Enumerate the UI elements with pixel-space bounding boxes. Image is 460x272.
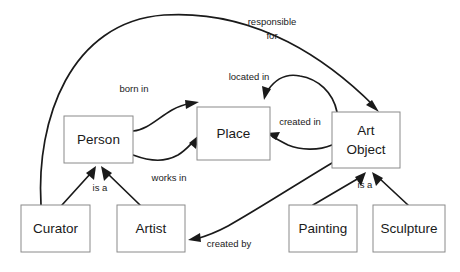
- edge-created-in-line: [273, 137, 332, 149]
- edge-created-by-arrowhead: [188, 233, 201, 242]
- edge-is-a-painting-artobject-line: [313, 178, 359, 205]
- entity-artist-label: Artist: [136, 221, 167, 236]
- entity-painting-label: Painting: [299, 221, 348, 236]
- entity-art-object[interactable]: Art Object: [332, 112, 400, 168]
- edge-label-works-in: works in: [151, 172, 187, 183]
- entity-curator-label: Curator: [33, 221, 79, 236]
- edge-label-created-by: created by: [207, 238, 252, 249]
- edge-born-in: [133, 100, 199, 131]
- entity-sculpture-label: Sculpture: [380, 221, 437, 236]
- edge-is-a-sculpture-artobject: [372, 172, 408, 205]
- edge-responsible-for-arrowhead: [366, 100, 379, 112]
- edge-label-located-in: located in: [229, 71, 270, 82]
- edge-created-in: [266, 132, 332, 149]
- edge-is-a-curator-person: [62, 166, 96, 205]
- edge-born-in-line: [133, 103, 192, 131]
- entity-person[interactable]: Person: [64, 116, 133, 163]
- edge-label-born-in: born in: [119, 83, 148, 94]
- entity-artist[interactable]: Artist: [117, 205, 185, 252]
- entity-curator[interactable]: Curator: [21, 205, 90, 252]
- edge-works-in: [133, 135, 199, 160]
- edge-located-in: [262, 75, 337, 112]
- diagram-svg: Person Place Art Object Curator Artist P…: [0, 0, 460, 272]
- entity-art-object-rect[interactable]: [332, 112, 400, 168]
- edge-label-responsible-for-line1: responsible: [248, 16, 297, 27]
- edge-label-is-a-person: is a: [93, 182, 109, 193]
- edge-is-a-artist-person-arrowhead: [101, 166, 112, 181]
- entity-painting[interactable]: Painting: [289, 205, 357, 252]
- edge-label-created-in: created in: [279, 116, 321, 127]
- edge-is-a-artist-person-line: [107, 173, 140, 205]
- edge-is-a-sculpture-artobject-line: [379, 178, 408, 205]
- edge-is-a-sculpture-artobject-arrowhead: [372, 172, 383, 186]
- entity-sculpture[interactable]: Sculpture: [373, 205, 445, 252]
- entity-place-label: Place: [217, 126, 251, 141]
- edge-is-a-curator-person-line: [62, 173, 91, 205]
- entity-art-object-label-line2: Object: [346, 142, 385, 157]
- edge-located-in-line: [268, 75, 337, 112]
- entity-place[interactable]: Place: [197, 107, 270, 160]
- edge-label-responsible-for-line2: for: [266, 30, 277, 41]
- entity-person-label: Person: [77, 132, 120, 147]
- er-diagram-canvas: Person Place Art Object Curator Artist P…: [0, 0, 460, 272]
- entity-art-object-label-line1: Art: [357, 123, 375, 138]
- edge-label-is-a-artobject: is a: [358, 179, 374, 190]
- edge-works-in-line: [133, 141, 194, 160]
